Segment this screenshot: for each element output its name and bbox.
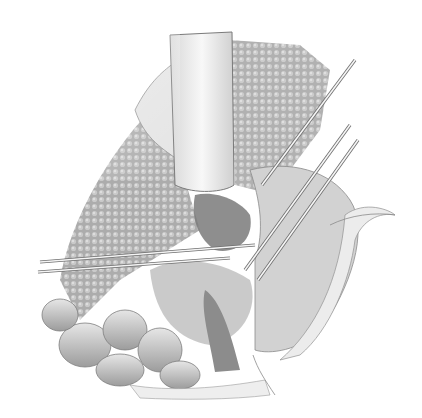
illustration-svg (0, 0, 422, 418)
central-organ (194, 194, 251, 251)
wound-edge-bottom (130, 380, 270, 399)
surgical-illustration (0, 0, 422, 418)
vignette (0, 0, 180, 180)
